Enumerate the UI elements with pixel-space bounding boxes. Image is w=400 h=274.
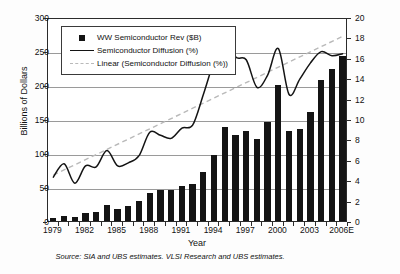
- x-axis-tickmark: [326, 222, 327, 226]
- x-axis-tickmark: [229, 222, 230, 226]
- x-axis-tickmark: [101, 222, 102, 226]
- y-axis-tickmark: [43, 188, 47, 189]
- x-axis-title: Year: [47, 238, 347, 248]
- legend-label: Semiconductor Diffusion (%): [97, 46, 198, 55]
- secondary-y-axis-tick-label: 12: [355, 96, 364, 105]
- secondary-y-axis-tickmark: [347, 161, 351, 162]
- x-axis-tickmark: [347, 222, 348, 226]
- y-axis-tickmark: [43, 154, 47, 155]
- secondary-y-axis-tickmark: [347, 100, 351, 101]
- legend-item-trendline: Linear (Semiconductor Diffusion (%)): [67, 57, 228, 70]
- x-axis-tickmark: [283, 222, 284, 226]
- x-axis-tickmark: [272, 222, 273, 226]
- chart-figure: Billions of Dollars Semiconductor Diffus…: [0, 0, 400, 274]
- x-axis-tickmark: [208, 222, 209, 226]
- x-axis-tickmark: [90, 222, 91, 226]
- secondary-y-axis-tick-label: 2: [355, 198, 360, 207]
- y-axis-tickmark: [43, 222, 47, 223]
- secondary-y-axis-tick-label: 14: [355, 75, 364, 84]
- x-axis-tickmark: [304, 222, 305, 226]
- x-axis-tickmark: [251, 222, 252, 226]
- source-note: Source: SIA and UBS estimates. VLSI Rese…: [0, 252, 340, 261]
- secondary-y-axis-tick-label: 6: [355, 157, 360, 166]
- secondary-y-axis-tick-label: 20: [355, 14, 364, 23]
- x-axis-tickmark: [165, 222, 166, 226]
- secondary-y-axis-tickmark: [347, 38, 351, 39]
- y-axis-tickmark: [43, 86, 47, 87]
- x-axis-tickmark: [154, 222, 155, 226]
- x-axis-tickmark: [133, 222, 134, 226]
- x-axis-tickmark: [240, 222, 241, 226]
- secondary-y-axis-tick-label: 4: [355, 177, 360, 186]
- y-axis-tickmark: [43, 18, 47, 19]
- legend-item-diffusion: Semiconductor Diffusion (%): [67, 44, 228, 57]
- x-axis-tickmark: [68, 222, 69, 226]
- x-axis-tickmark: [111, 222, 112, 226]
- secondary-y-axis-tickmark: [347, 140, 351, 141]
- x-axis-tickmark: [315, 222, 316, 226]
- legend-label: WW Semiconductor Rev ($B): [97, 33, 201, 42]
- x-axis-tick-label: 2006E: [320, 226, 364, 235]
- secondary-y-axis-tickmark: [347, 59, 351, 60]
- dashed-line-icon: [67, 63, 97, 64]
- x-axis-tickmark: [197, 222, 198, 226]
- x-axis-tickmark: [261, 222, 262, 226]
- secondary-y-axis-tick-label: 18: [355, 34, 364, 43]
- x-axis-tickmark: [293, 222, 294, 226]
- x-axis-tickmark: [122, 222, 123, 226]
- x-axis-tickmark: [218, 222, 219, 226]
- secondary-y-axis-tickmark: [347, 120, 351, 121]
- secondary-y-axis-tick-label: 8: [355, 136, 360, 145]
- secondary-y-axis-tick-label: 16: [355, 55, 364, 64]
- solid-line-icon: [67, 50, 97, 51]
- legend-label: Linear (Semiconductor Diffusion (%)): [97, 59, 228, 68]
- x-axis-tickmark: [176, 222, 177, 226]
- secondary-y-axis-tick-label: 10: [355, 116, 364, 125]
- x-axis-tickmark: [79, 222, 80, 226]
- y-axis-title: Billions of Dollars: [19, 21, 29, 181]
- secondary-y-axis-tickmark: [347, 181, 351, 182]
- square-marker-icon: [67, 35, 97, 41]
- x-axis-tickmark: [186, 222, 187, 226]
- chart-legend: WW Semiconductor Rev ($B) Semiconductor …: [61, 26, 236, 75]
- x-axis-tickmark: [143, 222, 144, 226]
- secondary-y-axis-tickmark: [347, 79, 351, 80]
- legend-item-revenue: WW Semiconductor Rev ($B): [67, 31, 228, 44]
- x-axis-tickmark: [336, 222, 337, 226]
- secondary-y-axis-tickmark: [347, 18, 351, 19]
- secondary-y-axis-tickmark: [347, 202, 351, 203]
- y-axis-tickmark: [43, 120, 47, 121]
- x-axis-tickmark: [58, 222, 59, 226]
- y-axis-tickmark: [43, 52, 47, 53]
